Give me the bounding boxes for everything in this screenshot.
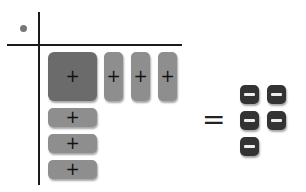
minus-icon bbox=[244, 119, 255, 122]
plus-sign: + bbox=[65, 161, 79, 178]
corner-dot bbox=[20, 25, 27, 32]
plus-sign: + bbox=[133, 68, 147, 85]
equals-sign: = bbox=[202, 106, 225, 134]
plus-sign: + bbox=[65, 135, 79, 152]
vertical-axis bbox=[38, 12, 40, 185]
plus-sign: + bbox=[65, 109, 79, 126]
x-tile-top-3: + bbox=[158, 52, 177, 101]
negative-unit-tile-4 bbox=[267, 111, 286, 130]
plus-sign: + bbox=[106, 68, 120, 85]
negative-unit-tile-2 bbox=[267, 85, 286, 104]
plus-sign: + bbox=[160, 68, 174, 85]
minus-icon bbox=[271, 93, 282, 96]
x-tile-left-2: + bbox=[48, 134, 97, 153]
plus-sign: + bbox=[65, 68, 79, 85]
negative-unit-tile-3 bbox=[240, 111, 259, 130]
minus-icon bbox=[271, 119, 282, 122]
x-tile-top-1: + bbox=[104, 52, 123, 101]
horizontal-axis bbox=[7, 44, 182, 46]
x-squared-tile: + bbox=[48, 52, 97, 101]
x-tile-top-2: + bbox=[131, 52, 150, 101]
x-tile-left-1: + bbox=[48, 108, 97, 127]
negative-unit-tile-1 bbox=[240, 85, 259, 104]
negative-unit-tile-5 bbox=[240, 137, 259, 156]
x-tile-left-3: + bbox=[48, 160, 97, 179]
minus-icon bbox=[244, 145, 255, 148]
minus-icon bbox=[244, 93, 255, 96]
